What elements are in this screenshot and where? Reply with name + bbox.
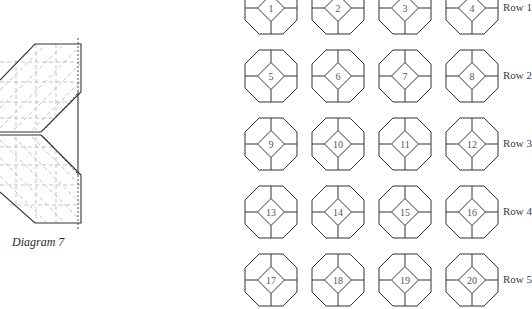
octagon-block: 10 (308, 114, 368, 174)
octagon-block: 12 (442, 114, 502, 174)
octagon-block: 14 (308, 182, 368, 242)
octagon-block: 7 (375, 46, 435, 106)
block-number: 2 (336, 3, 341, 14)
block-number: 1 (269, 3, 274, 14)
diagram-caption: Diagram 7 (12, 235, 64, 250)
guide-lines-upper (0, 44, 80, 130)
row-label: Row 1 (503, 1, 532, 13)
diagram-7-folding-illustration (0, 0, 100, 235)
block-number: 4 (470, 3, 475, 14)
octagon-block: 17 (241, 250, 301, 309)
octagon-block: 1 (241, 0, 301, 38)
octagon-block: 20 (442, 250, 502, 309)
block-number: 13 (266, 207, 276, 218)
block-number: 12 (467, 139, 477, 150)
block-number: 16 (467, 207, 477, 218)
octagon-block: 18 (308, 250, 368, 309)
row-label: Row 5 (503, 273, 532, 285)
block-number: 11 (400, 139, 410, 150)
block-number: 19 (400, 275, 410, 286)
octagon-block: 13 (241, 182, 301, 242)
fold-outline (0, 44, 81, 223)
block-number: 14 (333, 207, 343, 218)
row-label: Row 2 (503, 69, 532, 81)
octagon-block: 15 (375, 182, 435, 242)
octagon-block: 2 (308, 0, 368, 38)
block-number: 20 (467, 275, 477, 286)
block-number: 3 (403, 3, 408, 14)
block-number: 17 (266, 275, 276, 286)
block-number: 9 (269, 139, 274, 150)
block-number: 7 (403, 71, 408, 82)
block-number: 18 (333, 275, 343, 286)
block-number: 8 (470, 71, 475, 82)
octagon-block: 11 (375, 114, 435, 174)
octagon-block: 9 (241, 114, 301, 174)
octagon-block: 3 (375, 0, 435, 38)
block-number: 5 (269, 71, 274, 82)
octagon-block: 16 (442, 182, 502, 242)
row-label: Row 4 (503, 205, 532, 217)
octagon-block: 19 (375, 250, 435, 309)
block-number: 15 (400, 207, 410, 218)
row-label: Row 3 (503, 137, 532, 149)
octagon-block: 4 (442, 0, 502, 38)
octagon-block: 6 (308, 46, 368, 106)
octagon-block: 8 (442, 46, 502, 106)
guide-lines-lower (0, 137, 80, 223)
block-number: 6 (336, 71, 341, 82)
octagon-block: 5 (241, 46, 301, 106)
block-number: 10 (333, 139, 343, 150)
